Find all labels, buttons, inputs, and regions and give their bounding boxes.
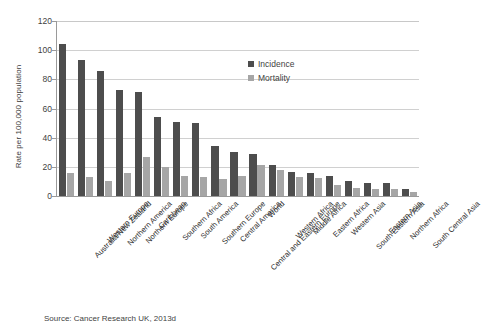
bar-incidence: [116, 90, 123, 196]
bar-group: [402, 21, 417, 196]
bar-incidence: [154, 117, 161, 196]
bar-incidence: [383, 183, 390, 196]
bar-group: [173, 21, 188, 196]
y-tick-label-120: 120: [28, 17, 52, 26]
plot-area: [56, 21, 419, 197]
bar-mortality: [334, 185, 341, 196]
bar-group: [78, 21, 93, 196]
bar-group: [288, 21, 303, 196]
legend-label-mortality: Mortality: [258, 71, 290, 85]
bar-mortality: [124, 173, 131, 196]
bar-mortality: [410, 192, 417, 196]
bar-mortality: [105, 181, 112, 196]
bar-incidence: [288, 172, 295, 196]
bar-group: [135, 21, 150, 196]
source-note: Source: Cancer Research UK, 2013d: [44, 314, 176, 323]
bar-incidence: [173, 122, 180, 196]
bar-mortality: [296, 177, 303, 196]
bar-group: [230, 21, 245, 196]
bar-group: [345, 21, 360, 196]
y-tick-label-20: 20: [28, 163, 52, 172]
y-tick-label-80: 80: [28, 75, 52, 84]
bar-group: [154, 21, 169, 196]
bar-mortality: [353, 188, 360, 196]
legend-swatch-incidence: [248, 61, 254, 67]
chart-legend: Incidence Mortality: [248, 57, 294, 85]
bar-mortality: [143, 157, 150, 196]
bar-mortality: [181, 176, 188, 196]
bar-incidence: [364, 183, 371, 196]
bar-group: [307, 21, 322, 196]
bar-group: [364, 21, 379, 196]
bar-incidence: [326, 176, 333, 196]
bar-series-container: [57, 21, 419, 196]
y-tick-label-60: 60: [28, 105, 52, 114]
bar-group: [269, 21, 284, 196]
bar-mortality: [257, 165, 264, 196]
bar-incidence: [230, 152, 237, 196]
bar-incidence: [78, 60, 85, 196]
bar-group: [192, 21, 207, 196]
bar-mortality: [238, 176, 245, 196]
bar-incidence: [211, 146, 218, 196]
bar-group: [116, 21, 131, 196]
bar-incidence: [345, 181, 352, 196]
bar-incidence: [192, 123, 199, 196]
bar-group: [326, 21, 341, 196]
bar-group: [211, 21, 226, 196]
bar-group: [59, 21, 74, 196]
bar-mortality: [391, 189, 398, 196]
bar-incidence: [59, 44, 66, 196]
bar-incidence: [402, 189, 409, 196]
bar-incidence: [307, 173, 314, 196]
bar-mortality: [67, 173, 74, 196]
bar-mortality: [277, 170, 284, 196]
bar-group: [249, 21, 264, 196]
legend-item-incidence: Incidence: [248, 57, 294, 71]
bar-incidence: [135, 92, 142, 196]
bar-mortality: [86, 177, 93, 196]
bar-group: [97, 21, 112, 196]
bar-mortality: [200, 177, 207, 196]
x-tick-label: South Central Asia: [432, 200, 482, 250]
legend-label-incidence: Incidence: [258, 57, 294, 71]
y-tick-label-0: 0: [28, 192, 52, 201]
bar-incidence: [249, 154, 256, 196]
bar-mortality: [162, 167, 169, 196]
bar-mortality: [372, 189, 379, 196]
legend-item-mortality: Mortality: [248, 71, 294, 85]
legend-swatch-mortality: [248, 75, 254, 81]
bar-mortality: [219, 179, 226, 197]
bar-incidence: [269, 165, 276, 196]
y-tick-label-100: 100: [28, 46, 52, 55]
bar-group: [383, 21, 398, 196]
y-tick-label-40: 40: [28, 134, 52, 143]
bar-mortality: [315, 178, 322, 196]
bar-incidence: [97, 71, 104, 196]
